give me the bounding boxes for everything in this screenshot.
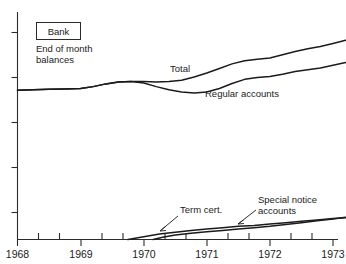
annotation-special-notice-line-2: accounts <box>258 205 296 216</box>
x-tick-label-1969: 1969 <box>69 248 93 260</box>
annotation-regular-accounts: Regular accounts <box>205 88 279 99</box>
chart-container: 1968 1969 1970 1971 1972 1973 Bank End o… <box>0 0 346 264</box>
x-tick-label-1973: 1973 <box>321 248 345 260</box>
line-chart: 1968 1969 1970 1971 1972 1973 Bank End o… <box>0 0 346 264</box>
x-tick-label-1972: 1972 <box>258 248 282 260</box>
annotation-total: Total <box>170 63 190 74</box>
annotation-special-notice-line-1: Special notice <box>258 194 317 205</box>
x-tick-label-1970: 1970 <box>132 248 156 260</box>
x-tick-label-1971: 1971 <box>195 248 219 260</box>
chart-title: Bank <box>48 26 70 37</box>
subtitle-line-1: End of month <box>36 43 93 54</box>
subtitle-line-2: balances <box>36 54 74 65</box>
x-tick-label-1968: 1968 <box>6 248 30 260</box>
annotation-term-cert: Term cert. <box>180 204 222 215</box>
